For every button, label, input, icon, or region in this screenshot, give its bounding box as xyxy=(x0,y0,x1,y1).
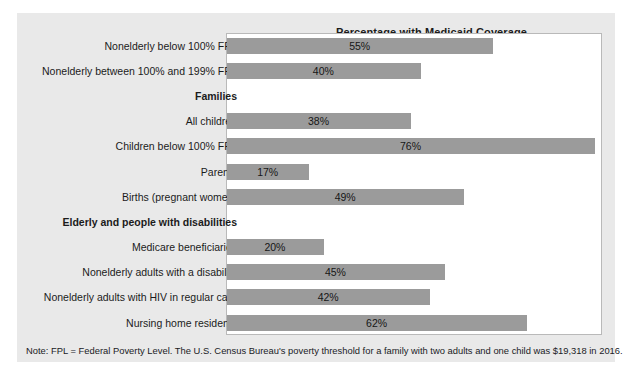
bar-row-label: Nonelderly between 100% and 199% FPL xyxy=(42,65,237,77)
bar-track: 17% xyxy=(227,159,602,184)
bar-row-label: Medicare beneficiaries xyxy=(132,241,237,253)
bar-track: 20% xyxy=(227,235,602,260)
bar-row: Nonelderly adults with a disability45% xyxy=(17,260,615,285)
bar-value-label: 45% xyxy=(325,266,346,278)
bar-value-label: 76% xyxy=(400,140,421,152)
chart-card: Percentage with Medicaid Coverage Noneld… xyxy=(17,13,615,362)
bar-track: 40% xyxy=(227,58,602,83)
bar-row: Nonelderly below 100% FPL55% xyxy=(17,33,615,58)
bar-value-label: 42% xyxy=(318,291,339,303)
bar-value-label: 20% xyxy=(264,241,285,253)
bar-row-label: Births (pregnant women) xyxy=(122,191,237,203)
bar-row-label: Nursing home residents xyxy=(126,317,237,329)
bar-row: Medicare beneficiaries20% xyxy=(17,235,615,260)
section-header-row: Families xyxy=(17,83,615,108)
bar-row: Births (pregnant women)49% xyxy=(17,184,615,209)
bar-track: 49% xyxy=(227,184,602,209)
bar-track: 62% xyxy=(227,310,602,335)
section-header-label: Elderly and people with disabilities xyxy=(63,216,237,228)
bar-row-label: Nonelderly adults with a disability xyxy=(82,266,237,278)
bar-row: Nonelderly adults with HIV in regular ca… xyxy=(17,285,615,310)
bar-rows-container: Nonelderly below 100% FPL55%Nonelderly b… xyxy=(17,33,615,335)
bar-value-label: 17% xyxy=(257,166,278,178)
bar-row: Nursing home residents62% xyxy=(17,310,615,335)
bar-row: Children below 100% FPL76% xyxy=(17,134,615,159)
bar-row: Nonelderly between 100% and 199% FPL40% xyxy=(17,58,615,83)
bar-track: 42% xyxy=(227,285,602,310)
bar-row-label: Nonelderly below 100% FPL xyxy=(105,40,238,52)
bar-value-label: 49% xyxy=(335,191,356,203)
bar-row: Parents17% xyxy=(17,159,615,184)
section-header-row: Elderly and people with disabilities xyxy=(17,209,615,234)
bar-track: 55% xyxy=(227,33,602,58)
bar-track: 45% xyxy=(227,260,602,285)
bar-value-label: 38% xyxy=(308,115,329,127)
bar-row: All children38% xyxy=(17,109,615,134)
bar-track xyxy=(227,209,602,234)
bar-row-label: Children below 100% FPL xyxy=(116,140,237,152)
bar-row-label: Nonelderly adults with HIV in regular ca… xyxy=(44,291,237,303)
bar-value-label: 40% xyxy=(313,65,334,77)
chart-note: Note: FPL = Federal Poverty Level. The U… xyxy=(26,345,608,356)
bar-track xyxy=(227,83,602,108)
bar-track: 76% xyxy=(227,134,602,159)
bar-value-label: 55% xyxy=(349,40,370,52)
bar-track: 38% xyxy=(227,109,602,134)
bar-value-label: 62% xyxy=(366,317,387,329)
